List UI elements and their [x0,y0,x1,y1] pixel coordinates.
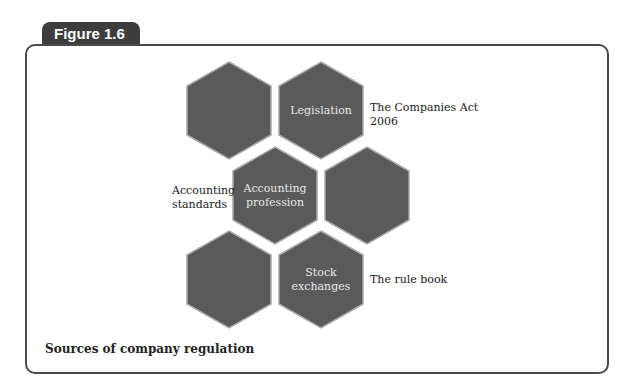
hexagon-label [186,230,272,329]
annotation-companies-act: The Companies Act 2006 [370,101,490,129]
figure-caption: Sources of company regulation [45,342,254,356]
figure-label-tab: Figure 1.6 [42,22,140,46]
figure-label: Figure 1.6 [54,25,125,42]
hexagon-bottom-left [186,230,272,329]
hexagon-label: Stock exchanges [278,230,364,329]
annotation-rule-book: The rule book [370,273,447,287]
annotation-accounting-standards: Accounting standards [172,184,234,212]
hexagon-stock-exchanges: Stock exchanges [278,230,364,329]
